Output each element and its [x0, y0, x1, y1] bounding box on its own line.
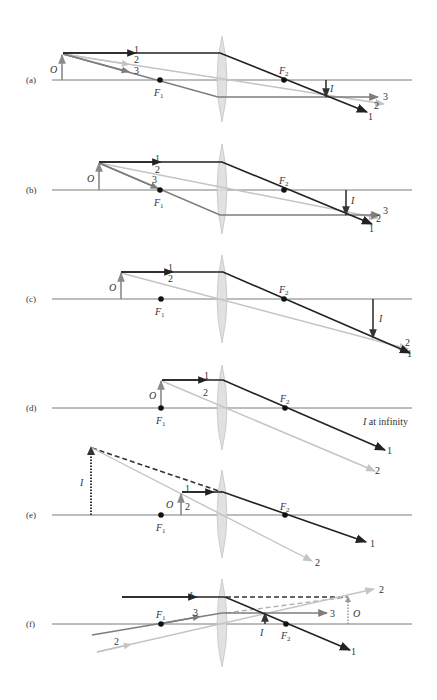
- f1-label: F1: [155, 415, 166, 428]
- f1-label: F1: [155, 609, 166, 622]
- ray-3-label: 3: [193, 607, 198, 618]
- ray-2-end-label: 2: [379, 584, 384, 595]
- ray-2: [162, 381, 375, 471]
- f1-label: F1: [153, 197, 164, 210]
- ray-3-label: 3: [134, 65, 139, 76]
- lens-ray-diagram-figure: (a) O I F1 F2 1 2 3 3 2 1 (b): [0, 0, 437, 700]
- ray-2-label: 2: [134, 54, 139, 65]
- focal-point-f2: [281, 296, 287, 302]
- ray-1: [182, 492, 366, 542]
- f2-label: F2: [280, 630, 291, 643]
- object-label: O: [87, 173, 94, 184]
- object-label: O: [149, 390, 156, 401]
- panel-a: (a) O I F1 F2 1 2 3 3 2 1: [26, 36, 412, 122]
- ray-1-label: 1: [185, 483, 190, 494]
- ray-3-end-label: 3: [383, 91, 388, 102]
- f2-label: F2: [278, 284, 289, 297]
- focal-point-f1: [158, 512, 164, 518]
- image-label: I: [259, 627, 264, 638]
- panel-label: (a): [26, 75, 36, 85]
- ray-1: [162, 380, 385, 450]
- ray-2-label: 2: [168, 273, 173, 284]
- object-label: O: [353, 608, 360, 619]
- f2-label: F2: [278, 65, 289, 78]
- f1-label: F1: [155, 522, 166, 535]
- ray-1-end-label: 1: [368, 111, 373, 122]
- ray-2-end-label: 2: [376, 213, 381, 224]
- f1-label: F1: [154, 306, 165, 319]
- converging-lens: [217, 144, 227, 234]
- ray-1-end-label: 1: [387, 445, 392, 456]
- ray-2-arrow: [97, 645, 128, 652]
- ray-3-arrow: [99, 163, 155, 187]
- ray-3-label: 3: [152, 174, 157, 185]
- ray-2-label: 2: [185, 501, 190, 512]
- ray-3-end-label: 3: [330, 608, 335, 619]
- ray-1-end-label: 1: [351, 646, 356, 657]
- panel-e: (e) O I F1 F2 1 2 1 2: [26, 446, 412, 568]
- focal-point-f1: [158, 621, 164, 627]
- ray-3-end-label: 3: [383, 205, 388, 216]
- ray-1-end-label: 1: [369, 223, 374, 234]
- image-label: I: [79, 477, 84, 488]
- f1-label: F1: [153, 87, 164, 100]
- focal-point-f2: [281, 77, 287, 83]
- focal-point-f2: [281, 187, 287, 193]
- focal-point-f1: [157, 77, 163, 83]
- panel-f: (f) O I F1 F2 1 3 2 3 2 1: [26, 579, 412, 667]
- focal-point-f2: [283, 621, 289, 627]
- focal-point-f1: [158, 296, 164, 302]
- panel-label: (f): [26, 619, 35, 629]
- ray-1-virtual-extension: [92, 448, 222, 492]
- object-label: O: [166, 499, 173, 510]
- ray-1-label: 1: [168, 262, 173, 273]
- ray-1-label: 1: [204, 370, 209, 381]
- image-label: I: [329, 83, 334, 94]
- focal-point-f1: [158, 405, 164, 411]
- object-label: O: [109, 282, 116, 293]
- ray-1-label: 1: [155, 153, 160, 164]
- ray-2-end-label: 2: [315, 557, 320, 568]
- image-at-infinity-label: I at infinity: [362, 416, 408, 427]
- ray-1-end-label: 1: [370, 538, 375, 549]
- ray-2: [92, 448, 312, 561]
- image-label: I: [378, 313, 383, 324]
- panel-c: (c) O I F1 F2 1 2 2 1: [26, 255, 412, 359]
- panel-d: (d) O F1 F2 1 2 I at infinity 1 2: [26, 365, 412, 476]
- image-label: I: [350, 195, 355, 206]
- ray-2-label: 2: [114, 636, 119, 647]
- panel-label: (c): [26, 294, 36, 304]
- virtual-image-arrowhead: [87, 446, 95, 455]
- panel-label: (d): [26, 403, 37, 413]
- ray-1-end-label: 1: [407, 348, 412, 359]
- ray-1-label: 1: [189, 590, 194, 601]
- focal-point-f1: [157, 187, 163, 193]
- focal-point-f2: [282, 405, 288, 411]
- panel-label: (e): [26, 510, 36, 520]
- object-label: O: [50, 64, 57, 75]
- panel-label: (b): [26, 185, 37, 195]
- ray-2-label: 2: [203, 387, 208, 398]
- ray-2-end-label: 2: [375, 465, 380, 476]
- ray-2-end-label: 2: [405, 337, 410, 348]
- panel-b: (b) O I F1 F2 1 2 3 3 2 1: [26, 144, 412, 234]
- ray-2-end-label: 2: [374, 100, 379, 111]
